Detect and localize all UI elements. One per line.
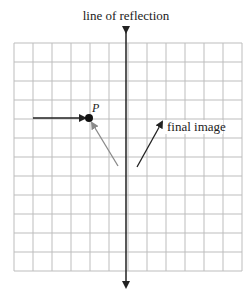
point-p — [85, 114, 93, 122]
point-p-label: P — [91, 101, 100, 115]
reflected-arrow — [92, 123, 118, 166]
final-image-label: final image — [167, 119, 226, 134]
reflection-diagram: P final image — [0, 0, 249, 299]
final-image-arrow — [137, 122, 162, 167]
grid — [14, 43, 242, 271]
